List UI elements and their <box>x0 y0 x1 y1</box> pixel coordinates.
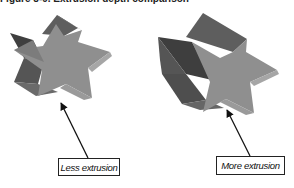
label-less-extrusion: Less extrusion <box>58 158 120 176</box>
arrow-icon-right <box>227 110 250 156</box>
star-icon-less-extrusion <box>10 15 112 100</box>
star-icon-more-extrusion <box>158 13 279 115</box>
arrow-icon-left <box>61 103 88 158</box>
label-more-extrusion: More extrusion <box>216 156 285 175</box>
